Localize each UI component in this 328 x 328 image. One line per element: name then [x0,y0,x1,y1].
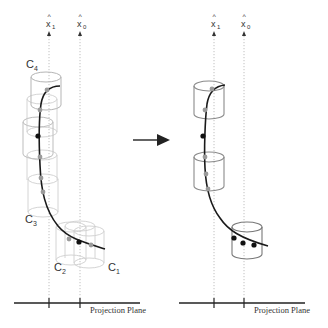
trajectory-curve [39,86,105,249]
svg-text:1: 1 [52,24,56,30]
gray-point [206,187,211,192]
diagram-canvas: ^ x 1 ^ x 0 [0,0,328,328]
x0-hat-label: ^ x 0 [77,13,87,30]
black-point [35,133,40,138]
gray-point [203,155,208,160]
label-c3: C 3 [25,213,37,227]
svg-text:x: x [46,19,51,29]
left-panel: ^ x 1 ^ x 0 [14,13,146,315]
gray-point [210,87,215,92]
x1-hat-label: ^ x 1 [211,13,221,30]
x0-hat-label: ^ x 0 [241,13,251,30]
black-point [251,242,256,247]
black-point [231,235,236,240]
svg-text:0: 0 [247,24,251,30]
svg-text:C: C [108,261,116,273]
x1-hat-label: ^ x 1 [46,13,56,30]
x0-arrow-icon [242,31,246,36]
black-point [200,133,205,138]
gray-point [39,176,44,181]
gray-point [38,155,43,160]
svg-text:2: 2 [62,268,66,275]
x1-arrow-icon [212,31,216,36]
gray-point [203,108,208,113]
faded-cylinders [27,94,104,268]
svg-text:1: 1 [217,24,221,30]
svg-text:x: x [241,19,246,29]
gray-point [41,190,46,195]
gray-point [67,237,72,242]
gray-point [45,88,50,93]
svg-text:3: 3 [33,220,37,227]
gray-point [38,108,43,113]
svg-text:0: 0 [83,24,87,30]
right-arrow-icon [133,134,170,146]
label-c1: C 1 [108,261,120,275]
svg-text:C: C [54,261,62,273]
svg-text:C: C [26,58,34,70]
gray-point [204,172,209,177]
svg-text:x: x [77,19,82,29]
x1-arrow-icon [47,31,51,36]
x0-arrow-icon [78,31,82,36]
cylinder-bottom [232,222,262,259]
black-point [76,239,81,244]
right-panel: ^ x 1 ^ x 0 [179,13,310,315]
black-point [240,240,245,245]
label-c2: C 2 [54,261,66,275]
svg-text:4: 4 [34,65,38,72]
svg-text:C: C [25,213,33,225]
svg-text:x: x [211,19,216,29]
projection-plane-label: Projection Plane [254,305,310,315]
svg-text:1: 1 [116,268,120,275]
projection-plane-label: Projection Plane [90,305,146,315]
label-c4: C 4 [26,58,38,72]
cylinder-middle [194,152,224,191]
gray-point [89,243,94,248]
